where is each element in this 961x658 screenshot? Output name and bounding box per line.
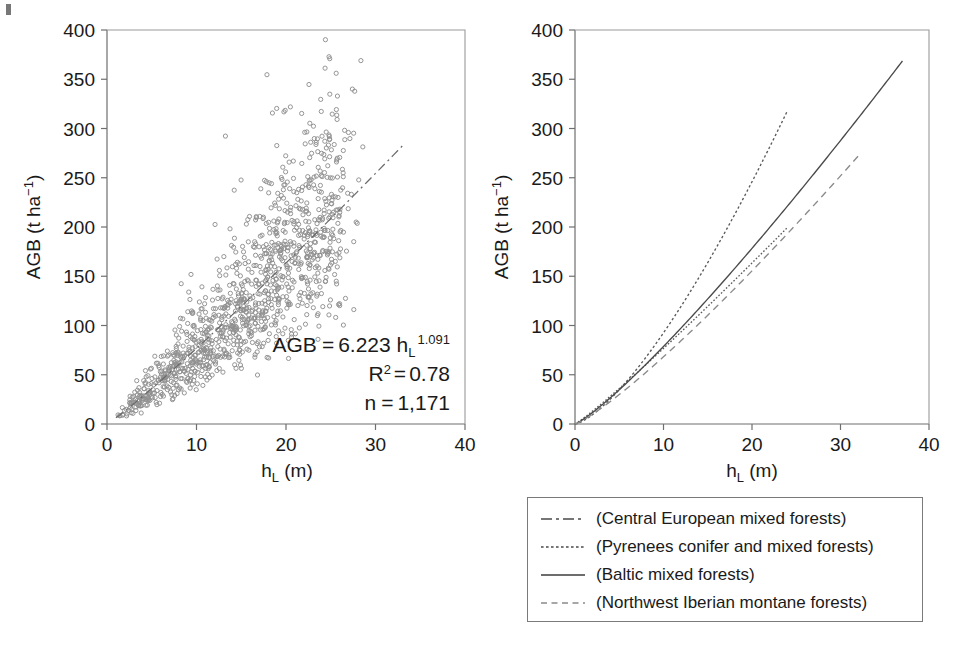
scatter-point <box>327 313 331 317</box>
scatter-point <box>323 157 327 161</box>
scatter-point <box>268 231 272 235</box>
scatter-point <box>216 345 220 349</box>
y-tick-label: 300 <box>63 119 95 140</box>
scatter-point <box>232 236 236 240</box>
scatter-point <box>289 254 293 258</box>
scatter-point <box>343 128 347 132</box>
scatter-point <box>223 134 227 138</box>
scatter-point <box>334 71 338 75</box>
scatter-point <box>309 151 313 155</box>
scatter-points <box>116 38 365 418</box>
curves-panel: 010203040 050100150200250300350400 hL (m… <box>470 0 960 490</box>
scatter-point <box>352 131 356 135</box>
model-curve <box>575 61 902 424</box>
scatter-point <box>177 336 181 340</box>
scatter-point <box>270 111 274 115</box>
plot-frame-right <box>575 30 929 424</box>
legend-swatch-dotted-icon <box>540 540 586 554</box>
scatter-point <box>329 148 333 152</box>
scatter-point <box>267 226 271 230</box>
scatter-point <box>303 142 307 146</box>
scatter-point <box>335 175 339 179</box>
scatter-point <box>296 303 300 307</box>
scatter-point <box>153 395 157 399</box>
x-tick-label: 40 <box>918 434 939 455</box>
scatter-point <box>259 270 263 274</box>
scatter-point <box>288 187 292 191</box>
scatter-point <box>143 369 147 373</box>
scatter-point <box>291 159 295 163</box>
legend-item-label: (Baltic mixed forests) <box>596 565 755 585</box>
scatter-point <box>291 176 295 180</box>
x-tick-label: 10 <box>186 434 207 455</box>
scatter-point <box>328 298 332 302</box>
scatter-point <box>316 271 320 275</box>
scatter-point <box>319 291 323 295</box>
legend-item: (Pyrenees conifer and mixed forests) <box>528 533 922 561</box>
scatter-point <box>269 206 273 210</box>
scatter-point <box>232 188 236 192</box>
scatter-point <box>335 265 339 269</box>
figure-root: 010203040 050100150200250300350400 hL (m… <box>0 0 961 658</box>
scatter-point <box>153 354 157 358</box>
scatter-point <box>269 270 273 274</box>
legend-swatch-dashed-icon <box>540 596 586 610</box>
scatter-point <box>334 279 338 283</box>
scatter-point <box>246 267 250 271</box>
scatter-point <box>201 383 205 387</box>
y-tick-label: 0 <box>84 414 95 435</box>
scatter-point <box>343 138 347 142</box>
scatter-point <box>224 273 228 277</box>
scatter-point <box>317 279 321 283</box>
scatter-point <box>181 344 185 348</box>
scatter-point <box>203 302 207 306</box>
y-tick-label: 350 <box>531 69 563 90</box>
scatter-point <box>185 339 189 343</box>
scatter-point <box>328 155 332 159</box>
scatter-point <box>352 307 356 311</box>
scatter-point <box>330 112 334 116</box>
scatter-point <box>309 140 313 144</box>
scatter-point <box>288 105 292 109</box>
scatter-point <box>189 272 193 276</box>
scatter-point <box>346 207 350 211</box>
x-axis-title-right: hL (m) <box>726 460 778 485</box>
scatter-point <box>203 295 207 299</box>
scatter-point <box>206 372 210 376</box>
scatter-point <box>284 154 288 158</box>
x-tick-label: 20 <box>275 434 296 455</box>
scatter-point <box>200 285 204 289</box>
scatter-point <box>281 165 285 169</box>
x-tick-labels-right: 010203040 <box>570 434 940 455</box>
scatter-point <box>259 319 263 323</box>
y-tick-label: 50 <box>542 365 563 386</box>
scatter-point <box>341 148 345 152</box>
scatter-point <box>240 244 244 248</box>
legend-swatch-dashdot-icon <box>540 512 586 526</box>
scatter-point <box>300 301 304 305</box>
scatter-point <box>264 242 268 246</box>
scatter-point <box>244 222 248 226</box>
scatter-point <box>318 183 322 187</box>
scatter-point <box>179 282 183 286</box>
scatter-point <box>300 161 304 165</box>
scatter-point <box>195 382 199 386</box>
scatter-point <box>361 145 365 149</box>
x-tick-label: 10 <box>653 434 674 455</box>
scatter-point <box>197 312 201 316</box>
legend-swatch-solid-icon <box>540 568 586 582</box>
x-tick-label: 0 <box>102 434 113 455</box>
scatter-point <box>287 160 291 164</box>
scatter-point <box>301 213 305 217</box>
scatter-point <box>343 296 347 300</box>
model-curve <box>575 111 787 424</box>
scatter-point <box>311 306 315 310</box>
x-tick-label: 20 <box>741 434 762 455</box>
scatter-point <box>218 274 222 278</box>
scatter-point <box>308 121 312 125</box>
scatter-point <box>166 353 170 357</box>
scatter-point <box>250 340 254 344</box>
scatter-point <box>318 285 322 289</box>
r-squared-annotation: R2=0.78 <box>368 362 450 385</box>
scatter-point <box>221 370 225 374</box>
